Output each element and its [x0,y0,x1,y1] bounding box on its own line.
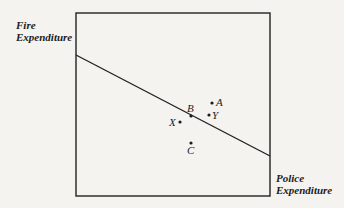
frame-box [76,13,270,196]
point-x: X [168,116,182,128]
point-y-dot [207,113,210,116]
point-x-label: X [168,116,177,128]
point-y: Y [207,109,220,121]
point-a-label: A [215,96,223,108]
point-b-label: B [187,102,194,114]
point-c: C [187,141,195,156]
point-x-dot [178,120,181,123]
diagram-canvas: A B Y X C [0,0,344,208]
point-y-label: Y [212,109,220,121]
point-a-dot [210,101,213,104]
budget-line [76,55,270,156]
point-c-label: C [187,144,195,156]
point-b-dot [189,114,192,117]
point-a: A [210,96,223,108]
